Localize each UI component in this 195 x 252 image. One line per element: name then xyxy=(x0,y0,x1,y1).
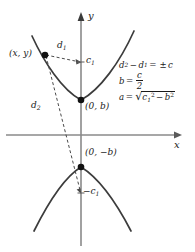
formula-b-equals-c-over-2: b= c 2 xyxy=(119,72,193,89)
eq2-equals: = xyxy=(125,76,135,86)
vertex-upper-label: (0, b) xyxy=(85,102,109,111)
point-xy-marker xyxy=(42,52,49,59)
eq1-equals: = xyxy=(148,60,158,70)
eq1-minus: − xyxy=(128,60,138,70)
y-axis-label: y xyxy=(88,11,94,21)
figure-canvas xyxy=(0,0,195,252)
x-axis xyxy=(6,132,182,139)
point-xy-label: (x, y) xyxy=(9,49,32,58)
x-axis-label: x xyxy=(174,140,180,150)
hyperbola-figure: y x (x, y) (0, b) (0, −b) d1 d2 c1 −c1 d… xyxy=(0,0,195,252)
eq2-numerator: c xyxy=(136,71,143,80)
focus-lower-sign: − xyxy=(83,186,91,196)
distance-d1-label: d1 xyxy=(57,41,67,51)
formula-difference-of-distances: d2−d1=±c xyxy=(119,57,193,72)
distance-d2-label: d2 xyxy=(31,101,41,111)
focus-lower-subscript: 1 xyxy=(96,190,100,197)
eq3-minus: − xyxy=(155,92,165,102)
vertex-upper-marker xyxy=(78,97,85,104)
y-axis xyxy=(78,12,85,246)
vertex-lower-label: (0, −b) xyxy=(85,148,117,157)
focus-lower-label: −c1 xyxy=(83,187,99,197)
segment-d1 xyxy=(46,55,80,62)
eq2-fraction: c 2 xyxy=(136,71,143,90)
eq3-b-exponent: 2 xyxy=(170,93,174,99)
vertex-lower-marker xyxy=(78,164,85,171)
focus-upper-subscript: 1 xyxy=(91,59,95,66)
formula-a-equals-sqrt: a= √ c12−b2 xyxy=(119,89,193,105)
eq1-plus-minus: ± xyxy=(158,60,168,70)
distance-d1-subscript: 1 xyxy=(63,44,67,51)
segment-d2 xyxy=(46,56,80,190)
distance-d2-subscript: 2 xyxy=(37,104,41,111)
y-axis-arrowhead xyxy=(78,12,85,21)
eq1-c: c xyxy=(168,60,173,70)
x-axis-arrowhead xyxy=(174,132,182,139)
eq3-radicand: c12−b2 xyxy=(141,91,175,103)
formula-block: d2−d1=±c b= c 2 a= √ c12−b2 xyxy=(119,57,193,105)
eq3-radical: √ c12−b2 xyxy=(135,91,175,103)
radical-sign-icon: √ xyxy=(135,90,142,102)
focus-upper-label: c1 xyxy=(86,56,95,66)
lower-hyperbola-branch xyxy=(34,167,131,231)
eq3-equals: = xyxy=(124,92,134,102)
